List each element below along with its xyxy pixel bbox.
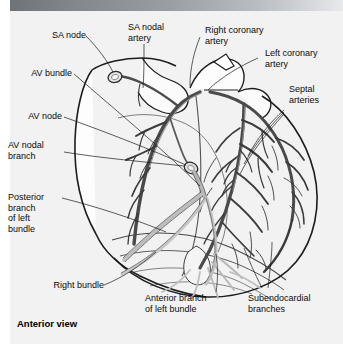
label-subendocardial-branches: Subendocardial branches: [248, 293, 311, 314]
fine-twig-3: [262, 206, 268, 230]
subendocardial-branch-2: [212, 262, 234, 290]
diagonal-branch-3: [236, 172, 268, 204]
label-av-bundle: AV bundle: [0, 68, 72, 79]
label-posterior-branch-left-bundle: Posterior branch of left bundle: [8, 192, 44, 234]
lad-left-twig-1: [216, 128, 240, 152]
label-right-coronary-artery: Right coronary artery: [205, 25, 264, 46]
figure-panel: SA node SA nodal artery Right coronary a…: [0, 0, 343, 344]
label-right-bundle: Right bundle: [20, 280, 104, 291]
fine-twig-2: [268, 176, 274, 200]
label-sa-nodal-artery: SA nodal artery: [128, 22, 164, 43]
diagonal-branch-4: [230, 198, 262, 232]
label-septal-arteries: Septal arteries: [289, 84, 319, 105]
av-nodal-branch-vessel: [170, 118, 190, 166]
papillary-muscle: [184, 246, 211, 285]
leader-posterior-left-bundle: [62, 198, 166, 232]
diagonal-branch-2b: [258, 158, 264, 188]
label-av-node: AV node: [0, 111, 62, 122]
left-coronary-artery-vessel: [210, 92, 244, 104]
view-caption: Anterior view: [17, 318, 77, 329]
label-left-coronary-artery: Left coronary artery: [265, 48, 318, 69]
right-ventricle-outline: [75, 70, 96, 234]
fine-twig-9: [256, 250, 266, 270]
fine-twig-1: [272, 146, 278, 170]
label-av-nodal-branch: AV nodal branch: [8, 140, 44, 161]
atrial-border: [92, 58, 176, 70]
label-sa-node: SA node: [8, 30, 86, 41]
circumflex-marginal-1: [276, 138, 304, 160]
label-anterior-branch-left-bundle: Anterior branch of left bundle: [145, 293, 207, 314]
